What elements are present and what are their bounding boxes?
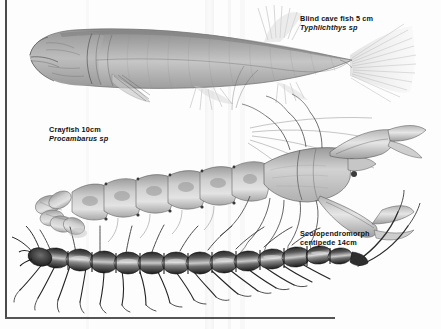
crayfish-abdomen (72, 162, 269, 221)
label-crayfish: Crayfish 10cm Procambarus sp (49, 125, 108, 143)
crayfish-claw-upper (330, 126, 426, 159)
label-blind-cave-fish: Blind cave fish 5 cm Typhlichthys sp (300, 14, 373, 32)
label-line-common: Blind cave fish 5 cm (300, 14, 373, 23)
label-line-common: Crayfish 10cm (49, 125, 108, 134)
centipede-body (41, 244, 368, 274)
label-line-size: centipede 14cm (300, 238, 370, 247)
illustration-plate: Blind cave fish 5 cm Typhlichthys sp Cra… (0, 0, 441, 329)
label-line-scientific: Procambarus sp (49, 134, 108, 143)
label-line-common: Scolopendromorph (300, 229, 370, 238)
label-line-scientific: Typhlichthys sp (300, 23, 373, 32)
label-centipede: Scolopendromorph centipede 14cm (300, 229, 370, 247)
specimen-illustrations (0, 0, 441, 329)
